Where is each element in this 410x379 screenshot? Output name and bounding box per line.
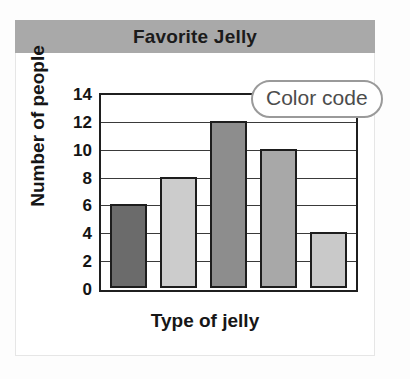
chart-title: Favorite Jelly [133, 26, 257, 48]
y-tick-label: 8 [83, 169, 92, 189]
bar[interactable] [260, 149, 297, 288]
bar-series [103, 97, 354, 288]
y-axis-title: Number of people [27, 26, 49, 226]
y-tick-label: 2 [83, 252, 92, 272]
y-tick-label: 10 [73, 141, 92, 161]
y-tick-label: 12 [73, 113, 92, 133]
bar[interactable] [160, 177, 197, 288]
y-tick-label: 14 [73, 85, 92, 105]
y-tick-label: 0 [83, 280, 92, 300]
bar[interactable] [310, 232, 347, 288]
chart-title-band: Favorite Jelly [15, 20, 375, 53]
plot-area: 02468101214 [99, 93, 358, 292]
figure-stage: Favorite Jelly Number of people 02468101… [0, 0, 410, 379]
bar[interactable] [210, 121, 247, 288]
bar[interactable] [110, 204, 147, 288]
y-tick-label: 6 [83, 196, 92, 216]
y-tick-label: 4 [83, 224, 92, 244]
x-axis-title: Type of jelly [0, 310, 410, 332]
plot-frame [99, 93, 358, 292]
color-code-callout[interactable]: Color code [251, 80, 383, 118]
